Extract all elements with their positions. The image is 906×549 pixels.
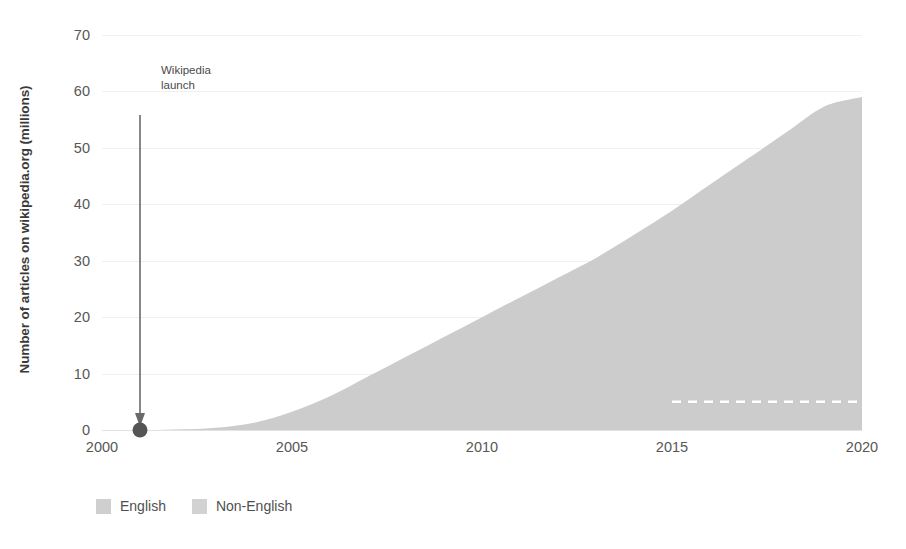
stacked-area-svg — [102, 35, 862, 430]
x-tick-2000: 2000 — [86, 439, 118, 455]
y-tick-70: 70 — [44, 27, 90, 43]
x-tick-2015: 2015 — [656, 439, 688, 455]
x-tick-2010: 2010 — [466, 439, 498, 455]
plot-area: 70 60 50 40 30 20 10 0 2000 2005 2010 20… — [102, 35, 862, 430]
y-tick-20: 20 — [44, 309, 90, 325]
y-tick-50: 50 — [44, 140, 90, 156]
legend: English Non-English — [96, 498, 292, 514]
legend-item-english[interactable]: English — [96, 498, 166, 514]
x-tick-2005: 2005 — [276, 439, 308, 455]
legend-item-non-english[interactable]: Non-English — [192, 498, 292, 514]
legend-swatch-english — [96, 499, 111, 514]
y-tick-60: 60 — [44, 83, 90, 99]
y-axis-title: Number of articles on wikipedia.org (mil… — [17, 10, 32, 450]
y-tick-30: 30 — [44, 253, 90, 269]
y-tick-10: 10 — [44, 366, 90, 382]
x-tick-2020: 2020 — [846, 439, 878, 455]
y-tick-40: 40 — [44, 196, 90, 212]
legend-swatch-non-english — [192, 499, 207, 514]
legend-label-non-english: Non-English — [216, 498, 292, 514]
gridline-0 — [102, 430, 862, 431]
area-non-english — [102, 97, 862, 430]
wikipedia-launch-annotation-line2: launch — [161, 78, 195, 92]
wikipedia-launch-annotation-line1: Wikipedia — [161, 63, 211, 77]
legend-label-english: English — [120, 498, 166, 514]
chart-container: Number of articles on wikipedia.org (mil… — [0, 0, 906, 549]
y-tick-0: 0 — [44, 422, 90, 438]
